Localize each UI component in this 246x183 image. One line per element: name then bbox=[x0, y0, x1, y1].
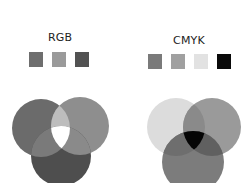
venn-diagrams bbox=[0, 0, 246, 183]
rgb-venn bbox=[12, 97, 109, 183]
cmyk-venn bbox=[147, 98, 241, 183]
